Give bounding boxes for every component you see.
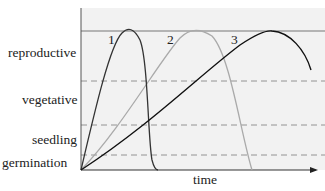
label-seedling: seedling xyxy=(32,132,77,148)
label-reproductive: reproductive xyxy=(8,45,76,61)
x-axis-label: time xyxy=(193,172,217,188)
plot-area xyxy=(81,8,325,170)
label-germination: germination xyxy=(2,155,67,171)
curve-label-3: 3 xyxy=(231,32,238,48)
curve-label-1: 1 xyxy=(108,32,115,48)
curve-label-2: 2 xyxy=(167,32,174,48)
label-vegetative: vegetative xyxy=(22,92,77,108)
